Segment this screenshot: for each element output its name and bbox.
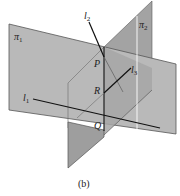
label-Q: Q [94,120,102,131]
label-l2: l2 [84,10,91,23]
intersecting-planes-diagram: π1 π2 l1 l2 l3 P R Q (b) [0,0,180,196]
label-R: R [93,85,100,96]
figure-caption: (b) [78,178,90,190]
label-P: P [93,58,100,69]
